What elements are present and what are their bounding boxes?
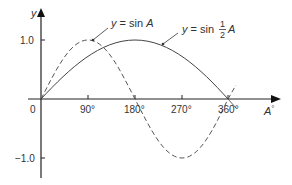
x-tick-label-270: 270° <box>171 104 192 115</box>
x-axis-label-letter: A <box>263 105 271 117</box>
label-sin-a: y = sin A <box>110 17 154 29</box>
leader-sin-a-dot <box>92 39 95 42</box>
curve-sin-half-a <box>41 40 228 99</box>
x-axis-label-degree: ° <box>271 104 274 113</box>
axes <box>28 8 281 178</box>
leader-sin-half-a <box>163 33 178 44</box>
x-axis-label: A° <box>263 104 275 117</box>
origin-label: 0 <box>30 104 36 115</box>
y-tick-label-1: 1.0 <box>20 35 34 46</box>
x-tick-label-180: 180° <box>124 104 145 115</box>
label-sin-half-a-numerator: 1 <box>220 19 225 29</box>
y-axis-label: y <box>30 7 38 19</box>
x-tick-label-360: 360° <box>218 104 239 115</box>
label-sin-half-a-var: A <box>227 23 235 35</box>
leader-sin-half-a-dot <box>162 43 165 46</box>
y-tick-label-neg1: −1.0 <box>15 153 35 164</box>
label-sin-a-var: A <box>145 17 153 29</box>
sine-chart: 0 1.0 −1.0 90° 180° 270° 360° y A° y = s… <box>0 0 292 185</box>
y-axis-arrow-icon <box>37 8 45 17</box>
label-sin-half-a-denominator: 2 <box>220 30 225 40</box>
leader-sin-a <box>93 28 108 40</box>
x-axis-arrow-icon <box>271 95 281 103</box>
x-tick-label-90: 90° <box>80 104 95 115</box>
label-sin-half-a: y = sin <box>181 23 214 35</box>
